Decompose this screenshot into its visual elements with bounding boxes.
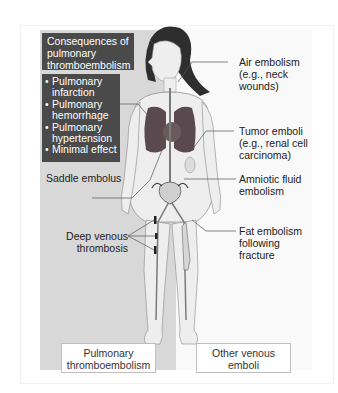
air-embolism-label: Air embolism (e.g., neck wounds)	[239, 56, 300, 92]
fat-embolism-label: Fat embolism following fracture	[239, 225, 302, 261]
consequences-list: Pulmonary infarction Pulmonary hemorrhag…	[42, 74, 120, 162]
consequences-title-box: Consequences of pulmonary thromboembolis…	[42, 33, 134, 70]
tumor-emboli-label: Tumor emboli (e.g., renal cell carcinoma…	[239, 125, 308, 161]
title-line-3: thromboembolism	[47, 59, 134, 71]
dvt-label: Deep venous thrombosis	[66, 230, 128, 254]
amniotic-fluid-embolism-label: Amniotic fluid embolism	[239, 173, 301, 197]
saddle-embolus-label: Saddle embolus	[46, 172, 121, 184]
list-item: Pulmonary hemorrhage	[45, 99, 118, 122]
list-item: Minimal effect	[45, 144, 118, 155]
list-item: Pulmonary infarction	[45, 76, 118, 99]
pulmonary-thromboembolism-caption: Pulmonary thromboembolism	[61, 343, 156, 373]
other-venous-emboli-caption: Other venous emboli	[196, 343, 291, 373]
title-line-1: Consequences of	[47, 35, 134, 47]
list-item: Pulmonary hypertension	[45, 122, 118, 145]
title-line-2: pulmonary	[47, 47, 134, 59]
